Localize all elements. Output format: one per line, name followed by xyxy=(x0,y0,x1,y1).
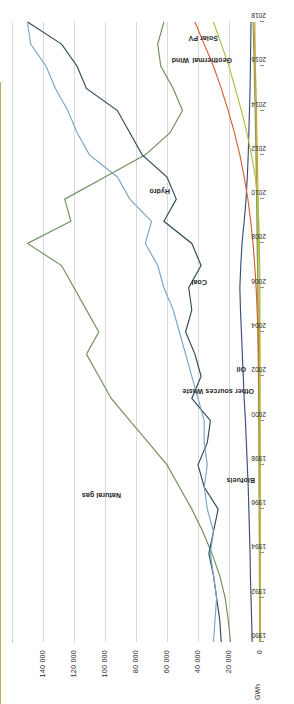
x-tick-label: 2000 xyxy=(251,411,266,418)
x-tick-label: 1992 xyxy=(251,588,266,595)
x-tick xyxy=(260,420,264,421)
x-tick-label: 1998 xyxy=(251,455,266,462)
x-tick-label: 1990 xyxy=(251,632,266,639)
x-tick xyxy=(260,464,264,465)
x-tick xyxy=(260,375,264,376)
x-tick xyxy=(260,331,264,332)
x-tick xyxy=(260,552,264,553)
x-tick-label: 2018 xyxy=(251,12,266,19)
x-tick-label: 2006 xyxy=(251,278,266,285)
series-line xyxy=(28,22,222,642)
x-tick-label: 2010 xyxy=(251,189,266,196)
x-tick xyxy=(260,641,264,642)
y-tick-label: 20 000 xyxy=(224,650,233,704)
x-tick-label: 2014 xyxy=(251,101,266,108)
x-tick xyxy=(260,21,264,22)
series-label-natural-gas: Natural gas xyxy=(81,492,120,499)
series-label-biofuels: Biofuels xyxy=(226,477,254,484)
y-tick-label: 0 xyxy=(255,650,264,704)
x-tick xyxy=(260,198,264,199)
y-tick-label: 120 000 xyxy=(69,650,78,704)
x-tick-label: 1996 xyxy=(251,499,266,506)
x-tick-label: 2008 xyxy=(251,233,266,240)
rotated-chart-viewport: GWh 020 00040 00060 00080 000100 000120 … xyxy=(0,0,294,704)
x-tick-label: 2002 xyxy=(251,366,266,373)
series-label-hydro: Hydro xyxy=(149,188,170,195)
series-label-solar-pv: Solar PV xyxy=(189,35,219,42)
y-tick-label: 80 000 xyxy=(131,650,140,704)
series-line xyxy=(28,22,217,642)
x-tick-label: 2004 xyxy=(251,322,266,329)
plot-area xyxy=(12,22,260,642)
x-tick-label: 2016 xyxy=(251,56,266,63)
x-axis-line xyxy=(0,82,1,704)
x-tick xyxy=(260,154,264,155)
y-tick-label: 60 000 xyxy=(162,650,171,704)
series-label-coal: Coal xyxy=(192,279,208,286)
x-tick xyxy=(260,597,264,598)
series-label-wind: Wind xyxy=(171,57,188,64)
x-tick-label: 2012 xyxy=(251,145,266,152)
x-tick xyxy=(260,110,264,111)
y-tick-label: 140 000 xyxy=(38,650,47,704)
series-line xyxy=(28,22,231,642)
x-tick xyxy=(260,508,264,509)
x-tick-label: 1994 xyxy=(251,543,266,550)
y-tick-label: 100 000 xyxy=(100,650,109,704)
x-tick xyxy=(260,65,264,66)
series-label-other-sources-waste: Other sources Waste xyxy=(183,388,255,395)
x-tick xyxy=(260,242,264,243)
chart-stage: GWh 020 00040 00060 00080 000100 000120 … xyxy=(0,0,294,704)
series-label-oil: Oil xyxy=(236,366,246,373)
x-tick xyxy=(260,287,264,288)
series-lines xyxy=(12,22,260,642)
series-label-geothermal: Geothermal xyxy=(192,57,232,64)
y-tick-label: 40 000 xyxy=(193,650,202,704)
